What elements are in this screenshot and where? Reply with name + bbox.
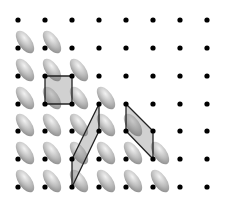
- motif-ellipse: [12, 167, 38, 196]
- motif-ellipse: [93, 167, 119, 196]
- lattice-point: [177, 73, 182, 78]
- lattice-point: [96, 184, 101, 189]
- lattice-point: [204, 45, 209, 50]
- lattice-point: [96, 17, 101, 22]
- square-unit-cell: [45, 76, 72, 104]
- lattice-point: [204, 184, 209, 189]
- lattice-point: [42, 101, 47, 106]
- lattice-point: [15, 73, 20, 78]
- motif-ellipse: [39, 111, 65, 140]
- lattice-point: [15, 184, 20, 189]
- lattice-point: [123, 45, 128, 50]
- lattice-point: [204, 73, 209, 78]
- lattice-point: [177, 17, 182, 22]
- lattice-point: [177, 184, 182, 189]
- motif-ellipse: [12, 84, 38, 113]
- lattice-point: [123, 184, 128, 189]
- lattice-point: [123, 17, 128, 22]
- motif-ellipse: [12, 139, 38, 168]
- lattice-point: [150, 156, 155, 161]
- lattice-point: [123, 128, 128, 133]
- lattice-point: [204, 101, 209, 106]
- lattice-point: [15, 45, 20, 50]
- lattice-point: [69, 184, 74, 189]
- lattice-point: [96, 128, 101, 133]
- lattice-point: [96, 101, 101, 106]
- lattice-point: [42, 17, 47, 22]
- lattice-point: [42, 184, 47, 189]
- lattice-point: [150, 128, 155, 133]
- lattice-point: [204, 156, 209, 161]
- lattice-point: [177, 45, 182, 50]
- lattice-point: [123, 101, 128, 106]
- motif-ellipse: [120, 167, 146, 196]
- motif-ellipse: [93, 139, 119, 168]
- lattice-point: [69, 128, 74, 133]
- motif-ellipse: [39, 139, 65, 168]
- lattice-point: [123, 73, 128, 78]
- motif-ellipse: [12, 28, 38, 57]
- lattice-point: [15, 128, 20, 133]
- lattice-point: [150, 17, 155, 22]
- lattice-point: [15, 101, 20, 106]
- lattice-point: [96, 156, 101, 161]
- lattice-point: [42, 73, 47, 78]
- motif-ellipse: [39, 28, 65, 57]
- lattice-point: [150, 45, 155, 50]
- lattice-point: [15, 17, 20, 22]
- lattice-point: [69, 156, 74, 161]
- lattice-point: [96, 73, 101, 78]
- motif-ellipses: [12, 28, 173, 196]
- lattice-point: [69, 101, 74, 106]
- lattice-figure: [0, 0, 226, 203]
- motif-ellipse: [147, 167, 173, 196]
- lattice-point: [15, 156, 20, 161]
- lattice-point: [204, 17, 209, 22]
- lattice-diagram: [0, 0, 226, 203]
- lattice-point: [177, 128, 182, 133]
- lattice-point: [150, 73, 155, 78]
- lattice-point: [150, 184, 155, 189]
- lattice-point: [42, 45, 47, 50]
- lattice-point: [69, 45, 74, 50]
- lattice-point: [177, 101, 182, 106]
- lattice-point: [42, 128, 47, 133]
- lattice-point: [69, 73, 74, 78]
- motif-ellipse: [12, 56, 38, 85]
- lattice-point: [204, 128, 209, 133]
- motif-ellipse: [39, 167, 65, 196]
- lattice-point: [123, 156, 128, 161]
- lattice-point: [69, 17, 74, 22]
- lattice-point: [96, 45, 101, 50]
- lattice-point: [177, 156, 182, 161]
- motif-ellipse: [12, 111, 38, 140]
- lattice-point: [150, 101, 155, 106]
- lattice-point: [42, 156, 47, 161]
